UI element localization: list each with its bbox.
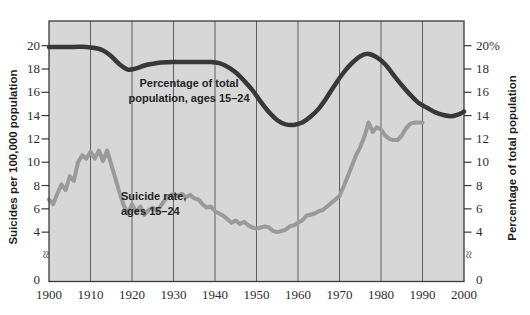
left-axis-tick-label: 8 — [34, 178, 41, 194]
population-suicide-chart: ≈≈ Suicides per 100,000 population Perce… — [0, 0, 530, 315]
x-axis-tick-label: 1910 — [71, 287, 111, 303]
left-axis-tick-label: 16 — [27, 84, 40, 100]
x-axis-tick-label: 1970 — [320, 287, 360, 303]
right-axis-tick-label: 16 — [476, 84, 489, 100]
x-axis-tick-label: 1930 — [154, 287, 194, 303]
right-axis-tick-label: 18 — [476, 61, 489, 77]
left-axis-tick-label: 20 — [27, 38, 40, 54]
right-axis-tick-label: 10 — [476, 154, 489, 170]
left-axis-tick-label: 18 — [27, 61, 40, 77]
left-axis-break-icon: ≈ — [38, 251, 53, 259]
right-axis-break-icon: ≈ — [461, 251, 476, 259]
suicide-line-label: Suicide rate, ages 15–24 — [121, 189, 186, 219]
x-axis-tick-label: 2000 — [444, 287, 484, 303]
left-axis-tick-label: 6 — [34, 201, 41, 217]
x-axis-tick-label: 1900 — [29, 287, 69, 303]
x-axis-tick-label: 1950 — [237, 287, 277, 303]
x-axis-tick-label: 1990 — [403, 287, 443, 303]
right-axis-tick-label: 20% — [476, 38, 500, 54]
x-axis-tick-label: 1940 — [195, 287, 235, 303]
left-axis-tick-label: 14 — [27, 108, 40, 124]
suicide-line-label-line2: ages 15–24 — [121, 204, 186, 219]
left-axis-zero-label: 0 — [34, 272, 41, 288]
x-axis-tick-label: 1960 — [278, 287, 318, 303]
right-axis-title: Percentage of total population — [506, 75, 518, 240]
left-axis-title: Suicides per 100,000 population — [7, 69, 19, 244]
left-axis-tick-label: 10 — [27, 154, 40, 170]
x-axis-tick-label: 1980 — [361, 287, 401, 303]
right-axis-tick-label: 12 — [476, 131, 489, 147]
left-axis-tick-label: 12 — [27, 131, 40, 147]
percentage-line-label-line1: Percentage of total — [126, 76, 252, 91]
chart-canvas: ≈≈ — [0, 0, 530, 315]
suicide-line-label-line1: Suicide rate, — [121, 189, 186, 204]
percentage-line-label: Percentage of total population, ages 15–… — [126, 76, 252, 106]
right-axis-tick-label: 8 — [476, 178, 483, 194]
right-axis-tick-label: 14 — [476, 108, 489, 124]
percentage-line-label-line2: population, ages 15–24 — [126, 91, 252, 106]
x-axis-tick-label: 1920 — [112, 287, 152, 303]
right-axis-tick-label: 6 — [476, 201, 483, 217]
right-axis-tick-label: 4 — [476, 224, 483, 240]
right-axis-zero-label: 0 — [476, 272, 483, 288]
left-axis-tick-label: 4 — [34, 224, 41, 240]
